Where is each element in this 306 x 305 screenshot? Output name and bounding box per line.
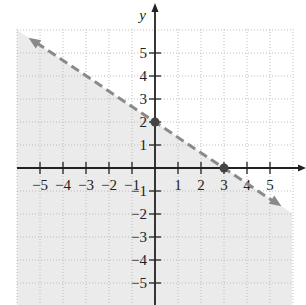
x-tick-label: −3 [78, 177, 94, 193]
x-tick-label: −2 [101, 177, 117, 193]
x-tick-label: 5 [266, 177, 274, 193]
graph-container: −5−4−3−2−112345−5−4−3−2−112345y [0, 0, 306, 305]
y-tick-label: 3 [140, 91, 148, 107]
y-tick-label: 1 [140, 137, 148, 153]
x-tick-label: −5 [32, 177, 48, 193]
y-axis-arrow-icon [152, 3, 159, 12]
x-axis-arrow-icon [298, 165, 306, 172]
y-axis-label: y [137, 7, 146, 23]
y-tick-label: −2 [131, 206, 147, 222]
y-tick-label: 4 [140, 68, 148, 84]
x-tick-label: 3 [220, 177, 228, 193]
y-tick-label: −3 [131, 229, 147, 245]
inequality-graph: −5−4−3−2−112345−5−4−3−2−112345y [0, 0, 306, 305]
intercept-point [151, 118, 160, 127]
y-tick-label: 5 [140, 45, 148, 61]
x-tick-label: 2 [197, 177, 205, 193]
y-tick-label: −1 [131, 183, 147, 199]
intercept-point [220, 164, 229, 173]
y-tick-label: −5 [131, 275, 147, 291]
y-tick-label: −4 [131, 252, 147, 268]
x-tick-label: −4 [55, 177, 71, 193]
x-tick-label: 1 [174, 177, 182, 193]
